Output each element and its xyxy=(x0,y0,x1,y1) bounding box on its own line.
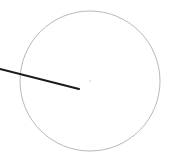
center-dot xyxy=(89,80,91,82)
dial-canvas xyxy=(0,0,170,168)
